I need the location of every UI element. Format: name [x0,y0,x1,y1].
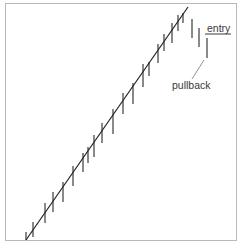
trendline [26,7,188,240]
entry-label: entry [207,22,230,34]
pullback-label: pullback [172,79,211,91]
trend-diagram [0,0,242,248]
pullback-bars [192,19,207,58]
pullback-pointer [192,60,204,79]
